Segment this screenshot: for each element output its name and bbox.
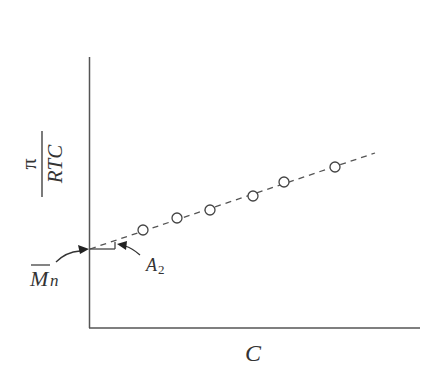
arrowhead-icon — [117, 241, 127, 250]
y-label-numerator: π — [16, 158, 41, 169]
arrowhead-icon — [78, 245, 89, 254]
data-point — [279, 177, 289, 187]
slope-label: A 2 — [145, 255, 165, 277]
intercept-label: M n — [29, 265, 59, 291]
x-axis-label: C — [245, 340, 262, 366]
svg-text:A: A — [145, 255, 158, 275]
y-axis-label: π RTC — [16, 131, 67, 197]
data-point — [138, 225, 148, 235]
svg-text:n: n — [50, 271, 59, 290]
svg-text:2: 2 — [158, 262, 165, 277]
svg-text:M: M — [29, 266, 50, 291]
data-point — [172, 213, 182, 223]
y-label-denominator: RTC — [43, 144, 67, 185]
data-point — [205, 205, 215, 215]
slope-arrow — [125, 246, 140, 255]
data-point — [330, 162, 340, 172]
osmotic-pressure-diagram: π RTC M n A 2 C — [0, 0, 436, 382]
intercept-arrow — [56, 251, 80, 262]
data-point — [248, 191, 258, 201]
